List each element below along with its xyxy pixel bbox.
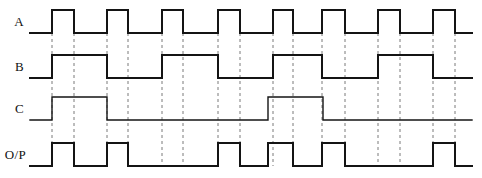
timing-diagram-figure: ABCO/P: [0, 0, 482, 178]
signal-labels-group: ABCO/P: [5, 14, 26, 162]
signal-label-a: A: [14, 14, 24, 29]
signal-label-op: O/P: [5, 147, 26, 162]
signal-label-c: C: [15, 101, 24, 116]
timing-diagram-canvas: ABCO/P: [0, 0, 482, 178]
grid-lines-group: [52, 33, 455, 166]
waveforms-group: [30, 10, 472, 166]
waveform-c: [30, 97, 472, 120]
waveform-op: [30, 143, 472, 166]
waveform-a: [30, 10, 472, 33]
waveform-b: [30, 55, 472, 78]
signal-label-b: B: [15, 59, 24, 74]
